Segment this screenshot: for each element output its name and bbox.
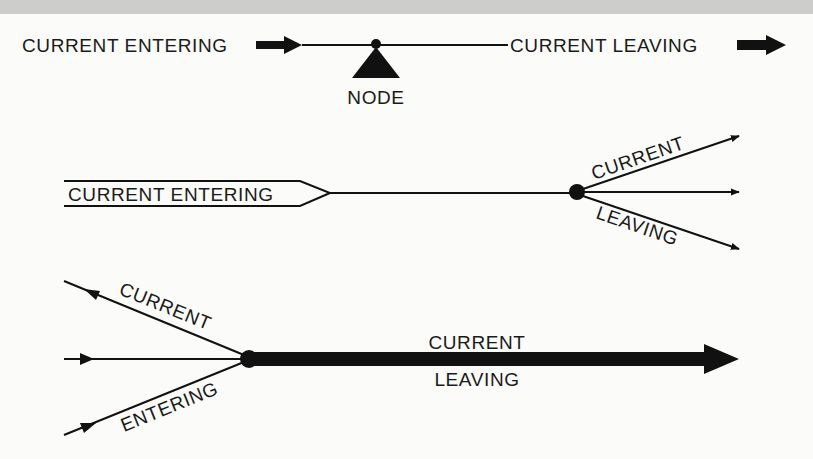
row3-in-arrowhead-top-icon	[84, 289, 100, 300]
node-label: NODE	[347, 87, 404, 108]
row3-entering-label-top: CURRENT	[117, 278, 215, 334]
row3-leaving-label-bottom: LEAVING	[434, 369, 519, 390]
row3-in-arrowhead-bottom-icon	[80, 423, 96, 433]
node-pointer-triangle-icon	[352, 47, 400, 78]
row3-leaving-label-top: CURRENT	[428, 332, 525, 353]
row-1-simple-node: CURRENT ENTERING NODE CURRENT LEAVING	[22, 35, 786, 108]
row2-entering-label: CURRENT ENTERING	[68, 184, 274, 205]
row1-leaving-label: CURRENT LEAVING	[510, 35, 698, 56]
row1-entering-label: CURRENT ENTERING	[22, 35, 228, 56]
row2-leaving-label-bottom: LEAVING	[594, 202, 681, 250]
block-arrow-leaving-icon	[737, 35, 786, 55]
row3-in-arrowhead-middle-icon	[80, 353, 94, 365]
row-3-three-in-one-out: CURRENT ENTERING CURRENT LEAVING	[64, 278, 739, 435]
kirchhoff-current-diagram: CURRENT ENTERING NODE CURRENT LEAVING CU…	[0, 0, 813, 459]
block-arrow-entering-icon	[256, 36, 302, 54]
row-2-one-in-three-out: CURRENT ENTERING CURRENT LEAVING	[64, 132, 739, 249]
